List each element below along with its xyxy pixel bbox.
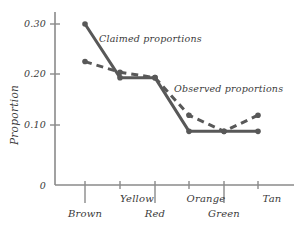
data-point [186,112,192,118]
y-tick-label-010: 0.10 [24,119,46,130]
x-label-red: Red [144,208,165,219]
y-tick-label-0: 0 [40,180,46,191]
data-point [255,129,261,135]
x-label-orange: Orange [187,193,226,204]
y-axis-title: Proportion [8,85,20,146]
data-point [255,112,261,118]
y-tick-label-030: 0.30 [24,18,46,29]
data-point [152,75,158,81]
data-point [117,75,123,81]
annotation-observed: Observed proportions [174,83,283,94]
annotation-claimed: Claimed proportions [99,33,202,44]
line-chart: 0.30 0.20 0.10 0 Proportion Yellow Orang… [0,0,301,229]
data-point [186,129,192,135]
x-label-tan: Tan [263,193,282,204]
series-observed-line [85,62,258,132]
y-tick-label-020: 0.20 [24,68,46,79]
data-point [221,129,227,135]
chart-container: 0.30 0.20 0.10 0 Proportion Yellow Orang… [0,0,301,229]
data-point [82,59,88,65]
x-label-green: Green [208,208,240,219]
data-point [82,21,88,27]
x-label-brown: Brown [67,208,102,219]
x-label-yellow: Yellow [120,193,154,204]
